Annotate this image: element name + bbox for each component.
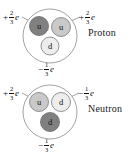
- proton-charge-left-fraction: 2 3: [9, 10, 14, 25]
- neutron-charge-left-numerator: 2: [9, 86, 13, 93]
- neutron-charge-left-denominator: 3: [9, 95, 13, 102]
- neutron-charge-left-unit: e: [15, 89, 19, 98]
- neutron-charge-left-fraction: 2 3: [9, 86, 14, 101]
- neutron-charge-right-fraction: 1 3: [84, 86, 89, 101]
- proton-diagram-graphics: [0, 0, 140, 78]
- proton-charge-left-denominator: 3: [9, 19, 13, 26]
- neutron-name-label: Neutron: [88, 103, 122, 114]
- proton-charge-right-unit: e: [91, 13, 95, 22]
- proton-charge-left-unit: e: [15, 13, 19, 22]
- proton-charge-label-right: + 2 3 e: [79, 10, 95, 25]
- neutron-charge-right-denominator: 3: [84, 95, 88, 102]
- neutron-charge-bottom-numerator: 1: [44, 138, 48, 145]
- neutron-charge-right-numerator: 1: [84, 86, 88, 93]
- neutron-quark-circle-down-bottom: [41, 113, 60, 132]
- neutron-quark-circle-down-right: [52, 93, 71, 112]
- proton-charge-right-fraction: 2 3: [85, 10, 90, 25]
- neutron-charge-right-unit: e: [90, 89, 94, 98]
- neutron-charge-left-sign: +: [3, 89, 8, 98]
- proton-charge-right-denominator: 3: [85, 19, 89, 26]
- proton-charge-left-numerator: 2: [9, 10, 13, 17]
- proton-charge-bottom-numerator: 1: [44, 62, 48, 69]
- neutron-diagram-graphics: [0, 77, 140, 155]
- proton-charge-bottom-fraction: 1 3: [44, 62, 49, 77]
- proton-quark-circle-up-right: [52, 18, 71, 37]
- proton-name-label: Proton: [88, 27, 116, 38]
- neutron-quark-circle-up: [30, 93, 49, 112]
- proton-charge-left-sign: +: [3, 13, 8, 22]
- neutron-charge-bottom-unit: e: [50, 141, 54, 150]
- proton-charge-label-left: + 2 3 e: [3, 10, 19, 25]
- neutron-figure: u d d + 2 3 e − 1 3 e − 1: [0, 77, 140, 155]
- proton-charge-right-sign: +: [79, 13, 84, 22]
- neutron-charge-label-bottom: − 1 3 e: [38, 138, 54, 153]
- proton-figure: u u d + 2 3 e + 2 3 e − 1: [0, 0, 140, 78]
- neutron-charge-right-sign: −: [78, 89, 83, 98]
- neutron-charge-label-right: − 1 3 e: [78, 86, 94, 101]
- proton-charge-right-numerator: 2: [85, 10, 89, 17]
- neutron-charge-bottom-fraction: 1 3: [44, 138, 49, 153]
- proton-charge-label-bottom: − 1 3 e: [38, 62, 54, 77]
- neutron-charge-label-left: + 2 3 e: [3, 86, 19, 101]
- proton-quark-circle-down: [41, 37, 59, 55]
- neutron-charge-bottom-sign: −: [38, 141, 43, 150]
- neutron-charge-bottom-denominator: 3: [44, 147, 48, 154]
- proton-quark-circle-up-left: [30, 17, 49, 36]
- proton-charge-bottom-sign: −: [38, 65, 43, 74]
- proton-charge-bottom-unit: e: [50, 65, 54, 74]
- quark-composition-figure: u u d + 2 3 e + 2 3 e − 1: [0, 0, 140, 155]
